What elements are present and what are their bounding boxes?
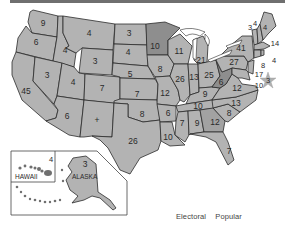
label-nm: + xyxy=(95,115,100,125)
label-az: 6 xyxy=(65,111,70,121)
label-nc: 13 xyxy=(231,98,241,108)
label-pa: 27 xyxy=(229,57,239,67)
label-ne: 5 xyxy=(128,69,133,79)
label-tx: 26 xyxy=(128,136,138,146)
legend-popular: Popular xyxy=(215,212,242,221)
label-ks: 7 xyxy=(135,89,140,99)
label-wi: 11 xyxy=(175,46,184,56)
state-ri[interactable] xyxy=(261,50,264,56)
label-tn: 10 xyxy=(193,101,203,111)
label-mo: 12 xyxy=(160,88,170,98)
state-nj[interactable] xyxy=(248,60,254,74)
label-al: 9 xyxy=(195,118,200,128)
label-wv: 6 xyxy=(219,77,224,87)
label-ma: 14 xyxy=(271,39,279,48)
label-nj: 17 xyxy=(255,70,263,79)
label-wa: 9 xyxy=(41,18,46,28)
label-ok: 8 xyxy=(140,109,145,119)
label-or: 6 xyxy=(34,37,39,47)
label-nv: 3 xyxy=(45,70,50,80)
label-hi: 4 xyxy=(49,155,53,164)
label-ms: 7 xyxy=(180,118,185,128)
label-md: 10 xyxy=(255,81,263,90)
state-ct[interactable] xyxy=(254,50,261,58)
label-wy: 3 xyxy=(93,56,98,66)
us-electoral-map: 9 6 45 4 3 4 3 4 6 7 + 3 4 5 7 8 26 10 8… xyxy=(0,0,285,225)
alaska-label: ALASKA xyxy=(72,173,98,180)
label-la: 10 xyxy=(163,132,173,142)
label-ia: 8 xyxy=(158,64,163,74)
label-ut: 4 xyxy=(71,77,76,87)
label-ca: 45 xyxy=(21,86,31,96)
label-mi: 21 xyxy=(196,55,206,65)
legend-electoral: Electoral xyxy=(176,212,206,221)
state-ak[interactable] xyxy=(66,156,116,210)
legend-header: Electoral Popular xyxy=(176,212,249,221)
label-il: 26 xyxy=(175,74,185,84)
label-ny: 41 xyxy=(236,43,246,53)
label-mt: 4 xyxy=(87,28,92,38)
label-in: 13 xyxy=(189,72,199,82)
label-fl: 7 xyxy=(227,146,232,156)
label-vt: 3 xyxy=(248,23,252,32)
label-ga: 12 xyxy=(210,117,220,127)
label-me: 4 xyxy=(263,23,267,32)
state-sd[interactable] xyxy=(113,44,148,66)
label-va: 12 xyxy=(232,83,242,93)
label-mn: 10 xyxy=(150,41,160,51)
label-ky: 9 xyxy=(203,89,208,99)
label-ri: 4 xyxy=(272,56,276,65)
label-nd: 3 xyxy=(127,28,132,38)
label-co: 7 xyxy=(100,83,105,93)
label-ar: 6 xyxy=(166,108,171,118)
hawaii-label: HAWAII xyxy=(15,173,38,180)
label-sc: 8 xyxy=(227,108,232,118)
label-ct: 8 xyxy=(261,61,265,70)
label-de: 3 xyxy=(266,76,270,85)
label-oh: 25 xyxy=(204,70,214,80)
label-ak: 3 xyxy=(83,159,88,169)
label-sd: 4 xyxy=(126,47,131,57)
label-nh: 4 xyxy=(253,19,257,28)
label-id: 4 xyxy=(63,45,68,55)
